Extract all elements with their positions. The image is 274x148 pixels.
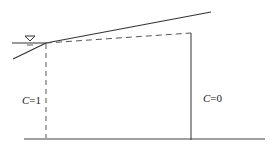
left-slope-line xyxy=(13,43,46,59)
diagram-canvas: C=1 C=0 xyxy=(0,0,274,148)
ground-surface-line xyxy=(46,12,211,43)
dashed-top-boundary xyxy=(46,33,191,43)
water-table-triangle-icon xyxy=(25,36,35,45)
label-c-equals-0: C=0 xyxy=(203,92,223,104)
label-c-equals-1: C=1 xyxy=(22,94,41,106)
